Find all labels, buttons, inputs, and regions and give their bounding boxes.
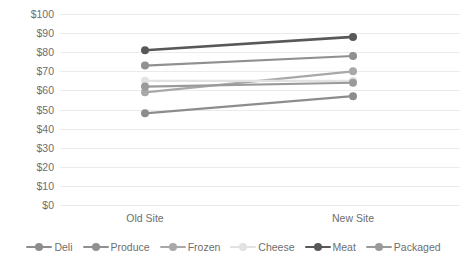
y-axis-tick-label: $70	[36, 66, 54, 76]
legend-item-cheese[interactable]: Cheese	[230, 241, 294, 253]
data-point-marker	[141, 62, 149, 70]
y-axis-tick-label: $90	[36, 28, 54, 38]
legend-label: Deli	[54, 241, 72, 253]
data-point-marker	[349, 52, 357, 60]
legend-marker-icon	[160, 242, 186, 252]
data-point-marker	[349, 79, 357, 87]
y-axis-tick-label: $60	[36, 85, 54, 95]
data-point-marker	[141, 46, 149, 54]
data-point-marker	[349, 67, 357, 75]
legend-label: Meat	[333, 241, 356, 253]
legend-label: Frozen	[188, 241, 221, 253]
y-axis-tick-label: $40	[36, 124, 54, 134]
legend-label: Produce	[111, 241, 150, 253]
legend-marker-icon	[83, 242, 109, 252]
legend-label: Cheese	[258, 241, 294, 253]
y-axis-tick-label: $10	[36, 181, 54, 191]
legend-marker-icon	[26, 242, 52, 252]
series-line	[145, 56, 353, 66]
line-chart: $100$90$80$70$60$50$40$30$20$10$0 Old Si…	[0, 0, 467, 260]
series-line	[145, 83, 353, 87]
x-axis-tick-label: New Site	[332, 212, 374, 224]
y-axis-tick-label: $0	[42, 200, 54, 210]
data-point-marker	[349, 33, 357, 41]
series-meat	[141, 33, 357, 54]
legend-item-packaged[interactable]: Packaged	[366, 241, 441, 253]
series-line	[145, 37, 353, 50]
series-deli	[141, 92, 357, 117]
y-axis-tick-label: $80	[36, 47, 54, 57]
y-axis-tick-label: $100	[31, 9, 54, 19]
series-line	[145, 96, 353, 113]
legend-item-deli[interactable]: Deli	[26, 241, 72, 253]
x-axis-tick-label: Old Site	[126, 212, 163, 224]
legend-item-frozen[interactable]: Frozen	[160, 241, 221, 253]
series-lines	[60, 0, 460, 212]
data-point-marker	[141, 83, 149, 91]
plot-area: $100$90$80$70$60$50$40$30$20$10$0	[0, 0, 467, 212]
legend-marker-icon	[230, 242, 256, 252]
legend-label: Packaged	[394, 241, 441, 253]
y-axis-tick-label: $20	[36, 162, 54, 172]
data-point-marker	[349, 92, 357, 100]
data-point-marker	[141, 109, 149, 117]
legend-item-meat[interactable]: Meat	[305, 241, 356, 253]
x-axis-labels: Old SiteNew Site	[60, 208, 460, 230]
y-axis-labels: $100$90$80$70$60$50$40$30$20$10$0	[0, 0, 58, 212]
legend-item-produce[interactable]: Produce	[83, 241, 150, 253]
y-axis-tick-label: $30	[36, 143, 54, 153]
chart-legend: DeliProduceFrozenCheeseMeatPackaged	[0, 234, 467, 260]
legend-marker-icon	[366, 242, 392, 252]
y-axis-tick-label: $50	[36, 105, 54, 115]
gridlines-container	[60, 0, 460, 212]
series-produce	[141, 52, 357, 70]
legend-marker-icon	[305, 242, 331, 252]
